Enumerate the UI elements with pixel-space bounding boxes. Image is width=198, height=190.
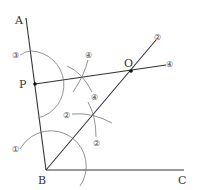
perpendicular-line-PO xyxy=(35,65,166,84)
step-label-2-lower: ② xyxy=(93,139,100,148)
arc-step-2a xyxy=(72,114,112,123)
label-P: P xyxy=(19,78,27,91)
bisector-line xyxy=(46,40,156,170)
step-label-1: ① xyxy=(12,145,19,154)
point-P xyxy=(33,82,37,86)
step-label-3: ③ xyxy=(12,51,19,60)
arc-step-4b xyxy=(73,60,88,92)
ray-BA xyxy=(26,18,46,170)
step-label-2-left: ② xyxy=(63,111,70,120)
leader-1 xyxy=(20,146,22,149)
geometry-construction-diagram: A P O B C ③ ④ ④ ④ ② ② ② ① xyxy=(0,0,198,190)
label-B: B xyxy=(38,174,46,187)
label-C: C xyxy=(178,174,186,187)
label-O: O xyxy=(124,57,133,70)
step-label-4-top: ④ xyxy=(85,51,92,60)
step-label-4-mid: ④ xyxy=(91,93,98,102)
arc-step-1 xyxy=(22,131,86,186)
step-label-4-right: ④ xyxy=(166,60,173,69)
label-A: A xyxy=(14,14,24,27)
step-label-2-top: ② xyxy=(154,33,161,42)
leader-3 xyxy=(20,51,31,55)
